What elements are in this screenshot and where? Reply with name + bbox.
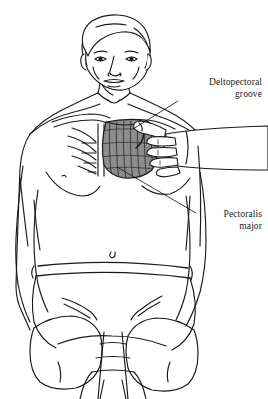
label-deltopectoral-groove: Deltopectoral groove: [178, 76, 262, 100]
shorts-crotch: [58, 336, 166, 346]
waistband-top: [38, 262, 188, 268]
examiner-middle-finger: [147, 148, 177, 158]
label-deltopectoral-groove-line-1: Deltopectoral: [178, 76, 262, 88]
examiner-forearm: [163, 126, 268, 170]
pupil-left-icon: [98, 57, 102, 62]
subject-left-arm-inner: [176, 196, 190, 320]
sternal-notch: [108, 100, 120, 103]
rib-5: [78, 166, 96, 174]
subject-left-arm-outer: [186, 172, 206, 326]
pupil-right-icon: [129, 57, 133, 62]
anatomy-figure: Deltopectoral groove Pectoralis major: [0, 0, 268, 399]
anatomy-illustration: [0, 0, 268, 399]
left-thigh: [126, 318, 198, 391]
subject-body-group: [16, 15, 268, 399]
right-knee-crease: [58, 362, 61, 382]
draped-cloth: [80, 332, 146, 399]
examiner-arm-group: [134, 121, 268, 177]
label-deltopectoral-groove-line-2: groove: [178, 88, 262, 100]
shorts-fold-right: [131, 296, 162, 320]
label-pectoralis-major-line-1: Pectoralis: [196, 208, 262, 220]
shorts-outline: [32, 276, 195, 350]
examiner-ring-finger: [150, 158, 178, 168]
right-thigh: [30, 316, 102, 389]
label-pectoralis-major-line-2: major: [196, 220, 262, 232]
label-pectoralis-major: Pectoralis major: [196, 208, 262, 232]
left-knee-crease: [167, 362, 170, 382]
examiner-index-finger: [147, 137, 176, 146]
navel: [110, 252, 115, 258]
waistband-bottom: [36, 272, 190, 278]
examiner-little-finger: [156, 167, 180, 177]
